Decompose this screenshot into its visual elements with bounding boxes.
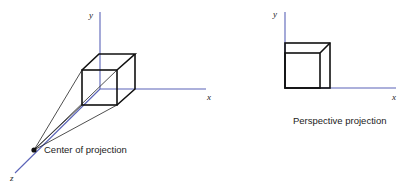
cube-top-face (82, 54, 135, 70)
figure-caption: Perspective projection (293, 115, 386, 126)
x-axis-label: x (391, 92, 396, 102)
y-axis-label: y (272, 9, 277, 19)
z-axis-label: z (9, 173, 14, 183)
center-of-projection-label: Center of projection (44, 144, 127, 155)
left-figure: y z Center of projection (9, 10, 206, 183)
y-axis-label: y (88, 10, 93, 20)
z-axis (15, 89, 100, 173)
projected-front-face (285, 53, 320, 88)
projected-cube (285, 43, 330, 88)
right-figure: y x Perspective projection (272, 9, 396, 126)
projector-lines (34, 70, 117, 150)
projected-diagonal-edge (320, 43, 330, 53)
left-x-axis-label: x (206, 92, 211, 102)
cube (82, 54, 135, 105)
center-of-projection-point (31, 147, 36, 152)
perspective-projection-diagram: y z Center of projection y x Perspective (0, 0, 412, 185)
